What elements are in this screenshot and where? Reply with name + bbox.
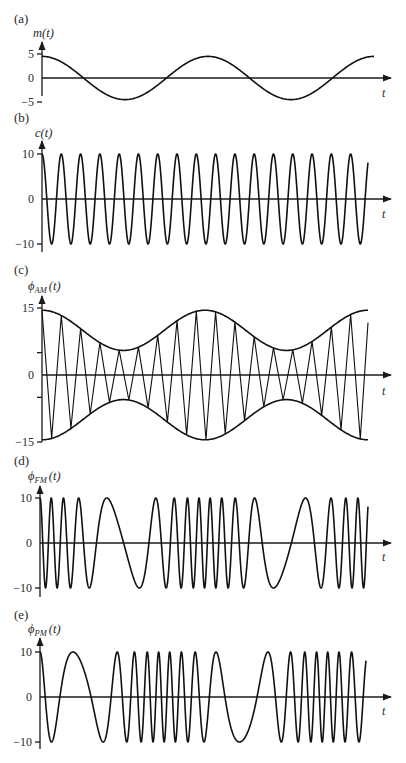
y-tick-label: −5: [21, 95, 34, 109]
y-tick-label: 10: [20, 491, 32, 505]
panel-label: (c): [14, 262, 28, 277]
x-axis-label: t: [382, 86, 386, 100]
panel-e-pm-signal: (e) ϕPM(t) 100−10 t: [13, 607, 391, 749]
y-tick-label: 15: [22, 301, 34, 315]
y-axis-label: c(t): [35, 126, 52, 140]
y-tick-label: 5: [28, 47, 34, 61]
y-tick-label: 0: [28, 192, 34, 206]
y-tick-label: −10: [13, 735, 32, 749]
y-axis-label: ϕAM(t): [28, 279, 61, 295]
y-tick-label: 0: [26, 536, 32, 550]
y-axis-label: ϕPM(t): [28, 622, 61, 638]
y-tick-label: 0: [28, 368, 34, 382]
y-tick-label: −10: [15, 237, 34, 251]
panel-label: (b): [14, 110, 29, 125]
y-axis-label: m(t): [33, 26, 54, 40]
panel-a-message-signal: (a) m(t) 50−5 t: [14, 11, 391, 109]
panel-c-am-signal: (c) ϕAM(t) 150−15 t: [14, 262, 391, 449]
x-axis-label: t: [382, 550, 386, 564]
y-tick-label: 10: [20, 645, 32, 659]
y-ticks: 100−10: [13, 491, 40, 595]
x-axis-label: t: [382, 207, 386, 221]
panel-d-fm-signal: (d) ϕFM(t) 100−10 t: [13, 453, 391, 597]
y-tick-label: 0: [28, 71, 34, 85]
y-axis-label: ϕFM(t): [28, 469, 61, 485]
y-tick-label: −15: [15, 435, 34, 449]
y-tick-label: 0: [26, 690, 32, 704]
x-axis-label: t: [382, 384, 386, 398]
panel-label: (d): [14, 453, 29, 468]
panel-label: (a): [14, 11, 28, 26]
y-ticks: 150−15: [15, 301, 42, 449]
y-ticks: 100−10: [13, 645, 40, 749]
y-ticks: 100−10: [15, 147, 42, 251]
upper-envelope: [42, 310, 368, 350]
modulation-figure: (a) m(t) 50−5 t (b) c(t) 100−10 t (c) ϕA…: [0, 0, 406, 763]
panel-b-carrier-signal: (b) c(t) 100−10 t: [14, 110, 391, 252]
x-axis-label: t: [382, 704, 386, 718]
y-tick-label: −10: [13, 581, 32, 595]
y-ticks: 50−5: [21, 47, 42, 109]
y-tick-label: 10: [22, 147, 34, 161]
panel-label: (e): [14, 607, 28, 622]
